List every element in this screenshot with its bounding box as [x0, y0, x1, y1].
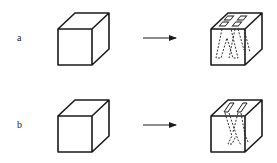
- cube-b-after: [211, 100, 262, 152]
- diagram: [0, 0, 277, 163]
- cube-a-before: [58, 13, 109, 65]
- cube-b-before: [58, 100, 109, 152]
- cube-a-after: [211, 13, 262, 65]
